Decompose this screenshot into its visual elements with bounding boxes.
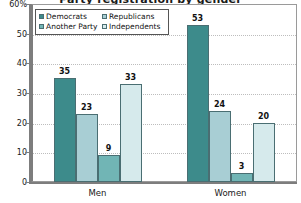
bar xyxy=(98,155,120,182)
legend-label: Democrats xyxy=(46,13,87,21)
legend-label: Republicans xyxy=(109,13,154,21)
legend-label: Independents xyxy=(109,23,160,31)
x-tick-label: Men xyxy=(89,188,107,198)
y-tickmark xyxy=(25,152,30,153)
bar-value-label: 33 xyxy=(125,73,136,82)
bar xyxy=(231,173,253,182)
bar xyxy=(187,25,209,182)
y-tickmark xyxy=(25,34,30,35)
legend-item[interactable]: Democrats xyxy=(39,12,102,22)
legend-swatch-icon xyxy=(39,24,44,29)
bar-value-label: 53 xyxy=(192,14,203,23)
chart-legend: DemocratsRepublicansAnother PartyIndepen… xyxy=(35,9,169,35)
y-tickmark xyxy=(25,4,30,5)
bar-chart: Party registration by gender 60%50403020… xyxy=(0,0,301,203)
legend-item[interactable]: Independents xyxy=(102,22,165,32)
bar xyxy=(76,114,98,182)
bar xyxy=(209,111,231,182)
legend-item[interactable]: Republicans xyxy=(102,12,165,22)
bar-value-label: 9 xyxy=(106,144,112,153)
legend-swatch-icon xyxy=(102,24,107,29)
bar-value-label: 24 xyxy=(214,100,225,109)
x-axis-spine xyxy=(29,182,297,184)
legend-swatch-icon xyxy=(102,14,107,19)
bar xyxy=(120,84,142,182)
bar-value-label: 23 xyxy=(81,103,92,112)
x-tick-label: Women xyxy=(214,188,246,198)
y-tickmark xyxy=(25,182,30,183)
bar xyxy=(54,78,76,182)
legend-label: Another Party xyxy=(46,23,98,31)
bar xyxy=(253,123,275,182)
y-tickmark xyxy=(25,93,30,94)
bar-value-label: 35 xyxy=(59,67,70,76)
y-tickmark xyxy=(25,63,30,64)
bar-value-label: 20 xyxy=(258,112,269,121)
legend-swatch-icon xyxy=(39,14,44,19)
bar-value-label: 3 xyxy=(239,162,245,171)
y-tickmark xyxy=(25,123,30,124)
legend-item[interactable]: Another Party xyxy=(39,22,102,32)
